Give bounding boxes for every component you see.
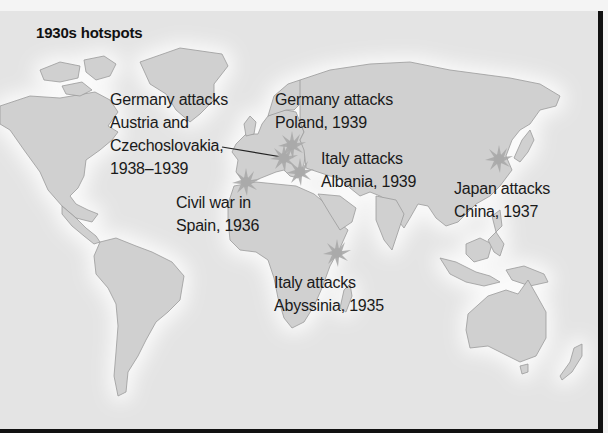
label-abyssinia: Italy attacks Abyssinia, 1935 xyxy=(274,271,384,317)
map-frame: 1930s hotspots Germany attacks Austria a… xyxy=(0,11,603,433)
map-title: 1930s hotspots xyxy=(36,24,142,41)
label-china: Japan attacks China, 1937 xyxy=(454,177,550,223)
label-poland: Germany attacks Poland, 1939 xyxy=(275,88,393,134)
label-austria-czechoslovakia: Germany attacks Austria and Czechoslovak… xyxy=(110,88,228,180)
label-spain: Civil war in Spain, 1936 xyxy=(176,191,259,237)
label-albania: Italy attacks Albania, 1939 xyxy=(321,147,416,193)
